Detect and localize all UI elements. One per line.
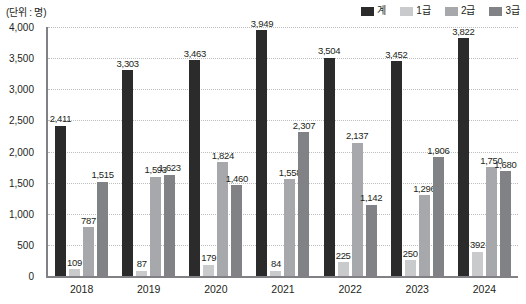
legend-swatch-icon bbox=[489, 7, 502, 16]
bar[interactable] bbox=[284, 179, 295, 276]
bar[interactable] bbox=[366, 205, 377, 276]
bar-group: 2,4111097871,515 bbox=[48, 27, 115, 276]
bar-set: 2,4111097871,515 bbox=[48, 27, 115, 276]
bar-value-label: 1,142 bbox=[360, 193, 382, 203]
bar[interactable] bbox=[419, 195, 430, 276]
bar[interactable] bbox=[83, 227, 94, 276]
y-axis-tick-label: 3,000 bbox=[0, 84, 34, 95]
bar[interactable] bbox=[164, 175, 175, 276]
bar-column: 2,411 bbox=[55, 27, 66, 276]
bar-groups: 2,4111097871,5153,303871,5931,6233,46317… bbox=[48, 27, 518, 276]
x-axis-tick-label: 2024 bbox=[451, 283, 518, 295]
bar-value-label: 84 bbox=[271, 259, 281, 269]
bar-value-label: 87 bbox=[137, 259, 147, 269]
bar-set: 3,5042252,1371,142 bbox=[317, 27, 384, 276]
bar[interactable] bbox=[231, 185, 242, 276]
bar-column: 1,680 bbox=[500, 27, 511, 276]
bar-column: 1,593 bbox=[150, 27, 161, 276]
bar[interactable] bbox=[472, 252, 483, 276]
y-axis-tick-label: 2,500 bbox=[0, 115, 34, 126]
bar-value-label: 392 bbox=[470, 240, 485, 250]
bar-column: 392 bbox=[472, 27, 483, 276]
y-axis-tick-label: 0 bbox=[0, 271, 34, 282]
legend-label: 1급 bbox=[416, 6, 431, 16]
bar[interactable] bbox=[136, 271, 147, 276]
bar[interactable] bbox=[391, 61, 402, 276]
legend-item[interactable]: 계 bbox=[361, 6, 386, 16]
bar[interactable] bbox=[324, 58, 335, 276]
bar-column: 1,906 bbox=[433, 27, 444, 276]
bar[interactable] bbox=[458, 38, 469, 276]
bar-column: 1,824 bbox=[217, 27, 228, 276]
bar-value-label: 1,623 bbox=[159, 163, 181, 173]
bar-group: 3,5042252,1371,142 bbox=[317, 27, 384, 276]
bar[interactable] bbox=[405, 260, 416, 276]
bar[interactable] bbox=[298, 132, 309, 276]
bar[interactable] bbox=[150, 177, 161, 276]
bar-column: 2,307 bbox=[298, 27, 309, 276]
bar-column: 250 bbox=[405, 27, 416, 276]
x-axis-tick-label: 2023 bbox=[384, 283, 451, 295]
bar-group: 3,949841,5582,307 bbox=[249, 27, 316, 276]
y-axis-tick-label: 3,500 bbox=[0, 53, 34, 64]
bar[interactable] bbox=[433, 157, 444, 276]
bar[interactable] bbox=[352, 143, 363, 276]
y-axis-tick-label: 4,000 bbox=[0, 22, 34, 33]
plot-area: 05001,0001,5002,0002,5003,0003,5004,000 … bbox=[46, 27, 518, 278]
bar[interactable] bbox=[338, 262, 349, 276]
bar-column: 3,452 bbox=[391, 27, 402, 276]
legend-item[interactable]: 1급 bbox=[400, 6, 431, 16]
bar-set: 3,949841,5582,307 bbox=[249, 27, 316, 276]
bar-value-label: 1,515 bbox=[91, 170, 113, 180]
bar-value-label: 787 bbox=[81, 216, 96, 226]
bar-column: 1,142 bbox=[366, 27, 377, 276]
x-axis-tick-label: 2020 bbox=[182, 283, 249, 295]
x-axis-line bbox=[46, 276, 518, 278]
y-axis-tick-label: 2,000 bbox=[0, 146, 34, 157]
bar-column: 1,623 bbox=[164, 27, 175, 276]
y-axis-tick-label: 1,500 bbox=[0, 177, 34, 188]
bar-set: 3,8223921,7501,680 bbox=[451, 27, 518, 276]
bar-group: 3,4522501,2961,906 bbox=[384, 27, 451, 276]
bar-chart: (단위 : 명) 계1급2급3급 05001,0001,5002,0002,50… bbox=[0, 0, 526, 304]
bar[interactable] bbox=[55, 126, 66, 276]
bar-group: 3,4631791,8241,460 bbox=[182, 27, 249, 276]
bar-value-label: 1,680 bbox=[494, 160, 516, 170]
bar[interactable] bbox=[500, 171, 511, 276]
bar-column: 109 bbox=[69, 27, 80, 276]
bar-column: 3,504 bbox=[324, 27, 335, 276]
bar-value-label: 179 bbox=[201, 253, 216, 263]
bar-column: 84 bbox=[270, 27, 281, 276]
bar[interactable] bbox=[486, 167, 497, 276]
y-axis-tick-label: 1,000 bbox=[0, 208, 34, 219]
bar-column: 1,460 bbox=[231, 27, 242, 276]
bar-column: 3,949 bbox=[256, 27, 267, 276]
legend-item[interactable]: 2급 bbox=[445, 6, 476, 16]
legend-item[interactable]: 3급 bbox=[489, 6, 520, 16]
bar-value-label: 1,906 bbox=[427, 146, 449, 156]
bar-column: 1,750 bbox=[486, 27, 497, 276]
legend-label: 2급 bbox=[461, 6, 476, 16]
bar-value-label: 250 bbox=[403, 249, 418, 259]
bar-column: 2,137 bbox=[352, 27, 363, 276]
bar[interactable] bbox=[270, 271, 281, 276]
legend-label: 3급 bbox=[505, 6, 520, 16]
bar-column: 3,303 bbox=[122, 27, 133, 276]
bar-set: 3,4522501,2961,906 bbox=[384, 27, 451, 276]
bar[interactable] bbox=[189, 60, 200, 276]
bar[interactable] bbox=[69, 269, 80, 276]
bar[interactable] bbox=[122, 70, 133, 276]
chart-legend: 계1급2급3급 bbox=[361, 6, 520, 16]
x-axis-ticks: 2018201920202021202220232024 bbox=[48, 283, 518, 295]
legend-swatch-icon bbox=[445, 7, 458, 16]
bar-value-label: 2,307 bbox=[293, 121, 315, 131]
bar-value-label: 225 bbox=[336, 251, 351, 261]
bar-value-label: 1,460 bbox=[226, 174, 248, 184]
unit-label: (단위 : 명) bbox=[6, 4, 46, 19]
bar[interactable] bbox=[203, 265, 214, 276]
x-axis-tick-label: 2019 bbox=[115, 283, 182, 295]
bar[interactable] bbox=[256, 30, 267, 276]
bar-group: 3,8223921,7501,680 bbox=[451, 27, 518, 276]
bar[interactable] bbox=[97, 182, 108, 276]
bar-set: 3,4631791,8241,460 bbox=[182, 27, 249, 276]
